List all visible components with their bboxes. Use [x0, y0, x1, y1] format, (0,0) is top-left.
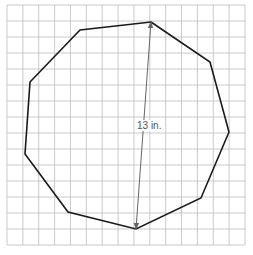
nonagon-diagram: 13 in.: [0, 0, 253, 255]
grid: [7, 5, 245, 245]
measurement-label: 13 in.: [137, 120, 161, 131]
